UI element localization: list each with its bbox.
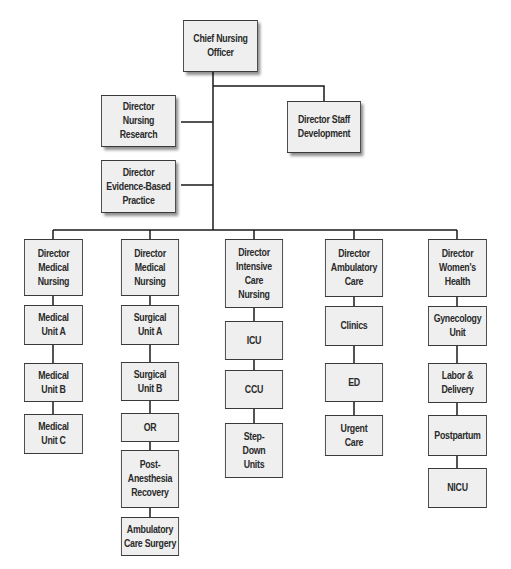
- unit-label: Medical Unit B: [38, 369, 68, 397]
- nicu-box[interactable]: NICU: [428, 468, 487, 508]
- unit-label: Clinics: [340, 319, 367, 333]
- director-staff-development-label: Director Staff Development: [298, 113, 350, 141]
- unit-label: Medical Unit A: [38, 311, 68, 339]
- unit-label: Post- Anesthesia Recovery: [128, 458, 172, 500]
- unit-label: Surgical Unit B: [134, 368, 167, 396]
- unit-label: Postpartum: [434, 429, 480, 443]
- ed-box[interactable]: ED: [325, 363, 383, 402]
- unit-label: CCU: [245, 383, 263, 397]
- org-chart: Chief Nursing Officer Director Nursing R…: [0, 0, 511, 569]
- director-womens-health-box[interactable]: Director Women's Health: [428, 239, 487, 297]
- director-evidence-based-practice-label: Director Evidence-Based Practice: [106, 166, 170, 208]
- icu-box[interactable]: ICU: [225, 321, 283, 360]
- surgical-unit-a-box[interactable]: Surgical Unit A: [121, 305, 179, 345]
- step-down-units-box[interactable]: Step- Down Units: [225, 423, 283, 478]
- director-label: Director Intensive Care Nursing: [236, 246, 272, 302]
- unit-label: ICU: [247, 334, 261, 348]
- director-medical-nursing-box[interactable]: Director Medical Nursing: [24, 239, 83, 296]
- medical-unit-c-box[interactable]: Medical Unit C: [24, 414, 83, 454]
- unit-label: Ambulatory Care Surgery: [124, 523, 176, 551]
- unit-label: ED: [348, 376, 360, 390]
- medical-unit-b-box[interactable]: Medical Unit B: [24, 363, 83, 402]
- surgical-unit-b-box[interactable]: Surgical Unit B: [121, 362, 179, 401]
- or-box[interactable]: OR: [121, 413, 179, 442]
- gynecology-unit-box[interactable]: Gynecology Unit: [428, 306, 487, 346]
- unit-label: Step- Down Units: [243, 430, 266, 472]
- unit-label: NICU: [447, 481, 467, 495]
- director-label: Director Ambulatory Care: [331, 247, 377, 289]
- chief-nursing-officer-box[interactable]: Chief Nursing Officer: [183, 20, 258, 72]
- unit-label: Labor & Delivery: [441, 369, 473, 397]
- unit-label: Medical Unit C: [38, 420, 68, 448]
- unit-label: Urgent Care: [341, 422, 368, 450]
- medical-unit-a-box[interactable]: Medical Unit A: [24, 305, 83, 345]
- director-ambulatory-care-box[interactable]: Director Ambulatory Care: [325, 239, 383, 297]
- ambulatory-care-surgery-box[interactable]: Ambulatory Care Surgery: [121, 517, 179, 556]
- director-intensive-care-nursing-box[interactable]: Director Intensive Care Nursing: [225, 239, 283, 308]
- urgent-care-box[interactable]: Urgent Care: [325, 415, 383, 456]
- director-medical-nursing-surgical-box[interactable]: Director Medical Nursing: [121, 239, 179, 296]
- ccu-box[interactable]: CCU: [225, 370, 283, 409]
- director-label: Director Medical Nursing: [38, 247, 70, 289]
- unit-label: Surgical Unit A: [134, 311, 167, 339]
- clinics-box[interactable]: Clinics: [325, 306, 383, 346]
- director-evidence-based-practice-box[interactable]: Director Evidence-Based Practice: [101, 160, 176, 213]
- post-anesthesia-recovery-box[interactable]: Post- Anesthesia Recovery: [121, 450, 179, 508]
- director-nursing-research-box[interactable]: Director Nursing Research: [101, 95, 176, 147]
- director-nursing-research-label: Director Nursing Research: [104, 100, 174, 142]
- labor-delivery-box[interactable]: Labor & Delivery: [428, 363, 487, 403]
- unit-label: OR: [144, 421, 157, 435]
- chief-nursing-officer-label: Chief Nursing Officer: [193, 32, 247, 60]
- director-label: Director Medical Nursing: [134, 247, 166, 289]
- director-label: Director Women's Health: [439, 247, 476, 289]
- unit-label: Gynecology Unit: [434, 312, 482, 340]
- director-staff-development-box[interactable]: Director Staff Development: [287, 101, 361, 153]
- postpartum-box[interactable]: Postpartum: [428, 415, 487, 456]
